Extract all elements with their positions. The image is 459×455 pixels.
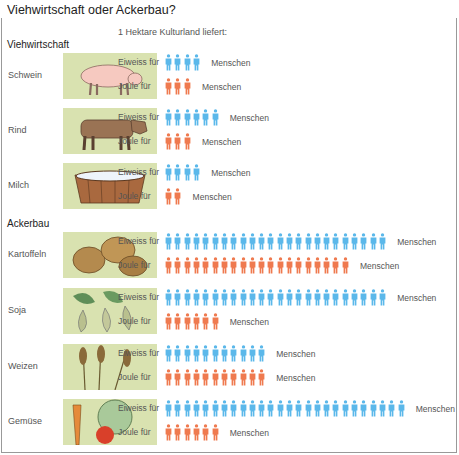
- person-icon: [313, 289, 322, 306]
- protein-pictogram-row: Menschen: [164, 345, 315, 362]
- person-icon: [164, 188, 173, 205]
- person-icon: [331, 257, 340, 274]
- person-icon: [192, 345, 201, 362]
- row-label: Milch: [8, 180, 29, 190]
- protein-label: Eiweiss für: [118, 57, 159, 67]
- person-icon: [359, 289, 368, 306]
- person-icon: [164, 54, 173, 71]
- unit-label: Menschen: [360, 261, 399, 271]
- person-icon: [210, 345, 219, 362]
- row-label: Kartoffeln: [8, 249, 46, 259]
- protein-label: Eiweiss für: [118, 292, 159, 302]
- person-icon: [173, 345, 182, 362]
- row-label: Gemüse: [8, 416, 42, 426]
- unit-label: Menschen: [202, 82, 241, 92]
- person-icon: [322, 400, 331, 417]
- person-icon: [164, 400, 173, 417]
- person-icon: [173, 289, 182, 306]
- person-icon: [369, 233, 378, 250]
- person-icon: [285, 289, 294, 306]
- person-icon: [313, 257, 322, 274]
- protein-pictogram-row: Menschen: [164, 54, 250, 71]
- person-icon: [238, 345, 247, 362]
- person-icon: [248, 345, 257, 362]
- person-icon: [183, 133, 192, 150]
- person-icon: [359, 233, 368, 250]
- person-icon: [313, 400, 322, 417]
- person-icon: [173, 188, 182, 205]
- person-icon: [220, 233, 229, 250]
- person-icon: [192, 54, 201, 71]
- person-icon: [192, 164, 201, 181]
- person-icon: [266, 257, 275, 274]
- person-icon: [220, 289, 229, 306]
- person-icon: [201, 345, 210, 362]
- person-icon: [341, 233, 350, 250]
- person-icon: [192, 424, 201, 441]
- person-icon: [229, 289, 238, 306]
- protein-pictogram-row: Menschen: [164, 289, 436, 306]
- person-icon: [285, 233, 294, 250]
- person-icon: [331, 289, 340, 306]
- person-icon: [313, 233, 322, 250]
- energy-label: Joule für: [118, 372, 151, 382]
- person-icon: [164, 78, 173, 95]
- energy-pictogram-row: Menschen: [164, 369, 315, 386]
- person-icon: [164, 424, 173, 441]
- person-icon: [183, 400, 192, 417]
- person-icon: [369, 400, 378, 417]
- person-icon: [322, 257, 331, 274]
- unit-label: Menschen: [397, 293, 436, 303]
- unit-label: Menschen: [416, 404, 455, 414]
- person-icon: [210, 400, 219, 417]
- person-icon: [164, 345, 173, 362]
- person-icon: [229, 233, 238, 250]
- person-icon: [257, 289, 266, 306]
- person-icon: [183, 345, 192, 362]
- person-icon: [331, 233, 340, 250]
- person-icon: [173, 400, 182, 417]
- person-icon: [369, 289, 378, 306]
- person-icon: [183, 289, 192, 306]
- person-icon: [257, 369, 266, 386]
- energy-pictogram-row: Menschen: [164, 257, 399, 274]
- person-icon: [387, 400, 396, 417]
- person-icon: [183, 233, 192, 250]
- energy-pictogram-row: Menschen: [164, 78, 241, 95]
- section-ackerbau: Ackerbau: [7, 218, 49, 229]
- energy-label: Joule für: [118, 316, 151, 326]
- person-icon: [183, 164, 192, 181]
- person-icon: [220, 369, 229, 386]
- person-icon: [201, 400, 210, 417]
- person-icon: [220, 257, 229, 274]
- person-icon: [192, 400, 201, 417]
- unit-label: Menschen: [230, 317, 269, 327]
- person-icon: [173, 424, 182, 441]
- person-icon: [164, 313, 173, 330]
- unit-label: Menschen: [276, 373, 315, 383]
- person-icon: [341, 257, 350, 274]
- person-icon: [220, 345, 229, 362]
- person-icon: [220, 400, 229, 417]
- person-icon: [285, 257, 294, 274]
- chart-subtitle: 1 Hektare Kulturland liefert:: [118, 27, 227, 37]
- person-icon: [257, 400, 266, 417]
- person-icon: [173, 257, 182, 274]
- person-icon: [257, 233, 266, 250]
- person-icon: [248, 400, 257, 417]
- person-icon: [229, 400, 238, 417]
- person-icon: [276, 289, 285, 306]
- person-icon: [183, 54, 192, 71]
- person-icon: [248, 289, 257, 306]
- person-icon: [201, 424, 210, 441]
- person-icon: [173, 369, 182, 386]
- person-icon: [294, 257, 303, 274]
- unit-label: Menschen: [193, 192, 232, 202]
- unit-label: Menschen: [211, 168, 250, 178]
- person-icon: [210, 109, 219, 126]
- person-icon: [238, 289, 247, 306]
- person-icon: [322, 289, 331, 306]
- person-icon: [378, 233, 387, 250]
- person-icon: [341, 400, 350, 417]
- person-icon: [210, 369, 219, 386]
